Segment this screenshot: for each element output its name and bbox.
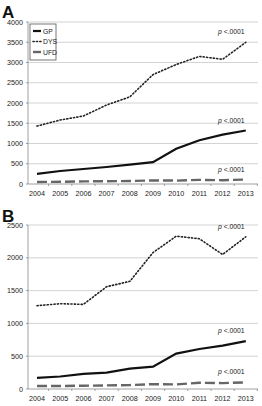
- p-value-annotation: p <.0001: [217, 28, 245, 36]
- series-gp-line: [37, 341, 246, 378]
- legend: GPDYSUFD: [30, 24, 57, 60]
- x-tick-label: 2005: [52, 394, 68, 403]
- panel-b: B050010001500200025002004200520062007200…: [2, 207, 258, 403]
- x-tick-label: 2008: [122, 189, 138, 198]
- p-value-annotation: p <.0001: [217, 327, 245, 335]
- y-tick-label: 2000: [7, 99, 23, 108]
- x-tick-label: 2007: [99, 394, 115, 403]
- x-tick-label: 2004: [29, 189, 45, 198]
- x-tick-label: 2006: [75, 189, 91, 198]
- x-tick-label: 2009: [145, 394, 161, 403]
- series-ufd-line: [37, 382, 246, 386]
- p-value-annotation: p <.0001: [217, 223, 245, 231]
- legend-label-gp: GP: [43, 28, 53, 35]
- x-tick-label: 2010: [168, 394, 184, 403]
- x-tick-label: 2004: [29, 394, 45, 403]
- p-value-annotation: p <.0001: [217, 368, 245, 376]
- y-tick-label: 500: [11, 352, 23, 361]
- chart-canvas: A050010001500200025003000350040002004200…: [0, 0, 262, 406]
- panel-a: A050010001500200025003000350040002004200…: [2, 3, 258, 198]
- x-tick-label: 2009: [145, 189, 161, 198]
- series-ufd-line: [37, 180, 246, 183]
- x-tick-label: 2012: [215, 394, 231, 403]
- y-tick-label: 1000: [7, 319, 23, 328]
- x-tick-label: 2007: [99, 189, 115, 198]
- x-tick-label: 2011: [192, 394, 207, 403]
- y-tick-label: 0: [19, 385, 23, 394]
- y-tick-label: 1500: [7, 119, 23, 128]
- legend-label-ufd: UFD: [43, 49, 57, 56]
- x-tick-label: 2012: [215, 189, 231, 198]
- y-tick-label: 0: [19, 180, 23, 189]
- y-tick-label: 2000: [7, 253, 23, 262]
- p-value-annotation: p <.0001: [217, 166, 245, 174]
- y-tick-label: 4000: [7, 18, 23, 27]
- y-tick-label: 1000: [7, 139, 23, 148]
- x-tick-label: 2013: [238, 394, 254, 403]
- series-dys-line: [37, 42, 246, 126]
- x-tick-label: 2013: [238, 189, 254, 198]
- x-tick-label: 2005: [52, 189, 68, 198]
- x-tick-label: 2010: [168, 189, 184, 198]
- y-tick-label: 3500: [7, 38, 23, 47]
- p-value-annotation: p <.0001: [217, 117, 245, 125]
- figure: A050010001500200025003000350040002004200…: [0, 0, 262, 406]
- series-dys-line: [37, 236, 246, 306]
- y-tick-label: 2500: [7, 221, 23, 230]
- y-tick-label: 1500: [7, 286, 23, 295]
- y-tick-label: 2500: [7, 78, 23, 87]
- x-tick-label: 2011: [192, 189, 207, 198]
- x-tick-label: 2006: [75, 394, 91, 403]
- y-tick-label: 500: [11, 159, 23, 168]
- legend-label-dys: DYS: [43, 38, 57, 45]
- y-tick-label: 3000: [7, 58, 23, 67]
- series-gp-line: [37, 131, 246, 174]
- x-tick-label: 2008: [122, 394, 138, 403]
